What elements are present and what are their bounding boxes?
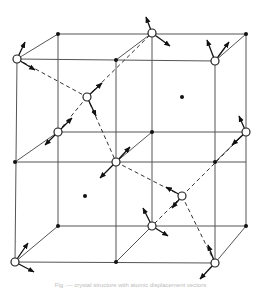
- lattice-point: [56, 32, 60, 36]
- lattice-point: [150, 130, 154, 134]
- open-atom: [242, 128, 250, 136]
- open-atom: [148, 222, 156, 230]
- lattice-point: [114, 58, 118, 62]
- lattice-point: [83, 194, 87, 198]
- lattice-points: [13, 32, 248, 264]
- crystal-lattice-diagram: [0, 0, 261, 290]
- bond-line: [182, 196, 215, 263]
- open-atom: [148, 29, 156, 37]
- lattice-point: [114, 260, 118, 264]
- open-atom: [112, 158, 120, 166]
- open-atoms: [11, 29, 250, 267]
- lattice-point: [244, 32, 248, 36]
- lattice-point: [13, 160, 17, 164]
- open-atom: [11, 258, 19, 266]
- lattice-point: [244, 224, 248, 228]
- open-atom: [83, 93, 91, 101]
- open-atom: [211, 259, 219, 267]
- displacement-arrows: [15, 17, 246, 279]
- lattice-point: [180, 95, 184, 99]
- open-atom: [13, 55, 21, 63]
- lattice-point: [213, 160, 217, 164]
- open-atom: [178, 192, 186, 200]
- lattice-edges: [15, 33, 246, 263]
- open-atom: [211, 57, 219, 65]
- dashed-bonds: [17, 33, 246, 263]
- open-atom: [54, 128, 62, 136]
- lattice-point: [56, 224, 60, 228]
- figure-caption: Fig. — crystal structure with atomic dis…: [0, 282, 261, 290]
